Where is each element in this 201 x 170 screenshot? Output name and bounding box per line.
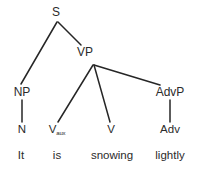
tree-edge-vp-advp (94, 65, 160, 85)
tree-node-v: V (107, 124, 115, 136)
tree-node-label: V (49, 123, 57, 135)
tree-edge-vp-v (94, 65, 110, 122)
tree-node-np: NP (14, 86, 31, 98)
tree-node-advp: AdvP (156, 86, 185, 98)
tree-edge-s-np (21, 22, 57, 84)
tree-node-label: AdvP (156, 85, 185, 99)
tree-node-label: VP (77, 45, 93, 59)
tree-node-subscript: aux (56, 130, 65, 136)
syntax-tree-diagram: SNPVPAdvPNVauxVAdv Itissnowinglightly (0, 0, 201, 170)
tree-edge-vp-vaux (58, 65, 93, 122)
tree-node-vp: VP (77, 46, 93, 58)
tree-node-s: S (52, 6, 60, 18)
tree-terminal-is: is (53, 150, 61, 162)
tree-terminal-lightly: lightly (155, 150, 184, 162)
tree-node-n: N (18, 124, 26, 136)
tree-node-vaux: Vaux (49, 124, 66, 136)
tree-node-adv: Adv (160, 124, 180, 136)
tree-edge-s-vp (58, 22, 81, 45)
tree-node-label: V (107, 123, 115, 135)
tree-node-label: Adv (160, 123, 180, 135)
tree-node-label: N (18, 123, 26, 135)
tree-terminal-it: It (18, 150, 24, 162)
tree-node-label: NP (14, 85, 31, 99)
tree-terminal-snowing: snowing (91, 150, 133, 162)
tree-node-label: S (52, 5, 60, 19)
